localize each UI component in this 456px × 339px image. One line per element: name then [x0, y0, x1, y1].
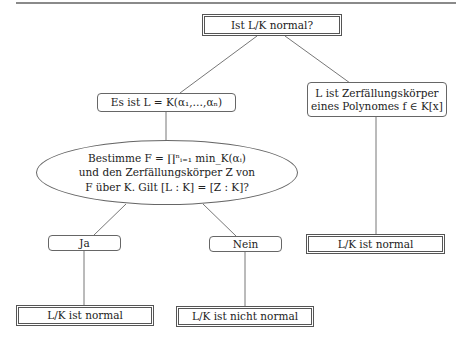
splitting-line-2: eines Polynomes f ∈ K[x] — [311, 100, 443, 113]
result-normal-left-box: L/K ist normal — [16, 305, 154, 326]
question-line-2: und den Zerfällungskörper Z von — [79, 165, 255, 180]
result-normal-right-box: L/K ist normal — [306, 234, 445, 254]
edge-question-yes — [94, 204, 126, 235]
edge-root-adjoin — [180, 36, 257, 93]
root-question-label: Ist L/K normal? — [231, 19, 313, 32]
splitting-line-1: L ist Zerfällungskörper — [315, 87, 438, 100]
adjoin-label: Es ist L = K(α₁,…,αₙ) — [111, 96, 222, 109]
splitting-field-box: L ist Zerfällungskörper eines Polynomes … — [307, 82, 447, 117]
result-normal-right-label: L/K ist normal — [338, 238, 414, 251]
question-line-3: F über K. Gilt [L : K] = [Z : K]? — [85, 180, 249, 195]
edge-question-no — [203, 204, 236, 236]
yes-box: Ja — [48, 235, 121, 251]
no-box: Nein — [209, 236, 282, 252]
adjoin-box: Es ist L = K(α₁,…,αₙ) — [97, 93, 236, 112]
edge-root-splitting — [285, 36, 350, 83]
yes-label: Ja — [79, 237, 89, 250]
no-label: Nein — [233, 238, 259, 251]
root-question-box: Ist L/K normal? — [202, 14, 342, 36]
result-not-normal-box: L/K ist nicht normal — [176, 306, 314, 327]
result-normal-left-label: L/K ist normal — [47, 309, 123, 322]
result-not-normal-label: L/K ist nicht normal — [192, 310, 298, 323]
question-line-1: Bestimme F = ∏ⁿᵢ₌₁ min_K(αᵢ) — [88, 151, 246, 166]
determine-question-ellipse: Bestimme F = ∏ⁿᵢ₌₁ min_K(αᵢ) und den Zer… — [36, 140, 298, 205]
